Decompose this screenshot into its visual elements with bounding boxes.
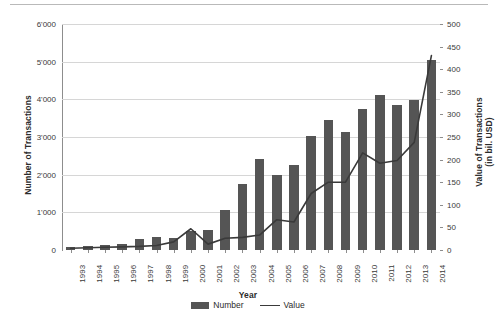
y-axis-right-tick-mark	[440, 160, 443, 161]
x-axis-tick-mark	[157, 250, 158, 253]
y-axis-right-tick-mark	[440, 182, 443, 183]
x-axis-tick-mark	[363, 250, 364, 253]
y-axis-right-tick-mark	[440, 250, 443, 251]
y-axis-right-tick-label: 50	[447, 223, 456, 232]
y-axis-right-title-line2: (in bil. USD)	[484, 117, 494, 166]
y-axis-left-title: Number of Transactions	[23, 65, 33, 225]
x-axis-tick-mark	[242, 250, 243, 253]
y-axis-right-tick-label: 500	[447, 20, 460, 29]
y-axis-left-tick-label: 4'000	[37, 95, 56, 104]
x-axis-tick-label: 1994	[95, 265, 104, 283]
x-axis-tick-label: 2001	[215, 265, 224, 283]
x-axis-tick-mark	[208, 250, 209, 253]
x-axis-tick-label: 2005	[284, 265, 293, 283]
x-axis-tick-mark	[294, 250, 295, 253]
x-axis-tick-mark	[397, 250, 398, 253]
y-axis-right-tick-label: 200	[447, 155, 460, 164]
x-axis-tick-mark	[277, 250, 278, 253]
y-axis-right-tick-label: 400	[447, 65, 460, 74]
y-axis-left-tick-label: 1'000	[37, 208, 56, 217]
y-axis-right-tick-mark	[440, 24, 443, 25]
y-axis-right-tick-mark	[440, 114, 443, 115]
y-axis-right-tick-mark	[440, 47, 443, 48]
y-axis-left-tick-label: 0	[52, 246, 56, 255]
legend-label-number: Number	[213, 300, 243, 310]
x-axis-tick-mark	[174, 250, 175, 253]
y-axis-right-title-line1: Value of Transactions	[474, 97, 484, 187]
chart-figure: Number of Transactions Value of Transact…	[0, 0, 496, 316]
x-axis-tick-mark	[380, 250, 381, 253]
x-axis-tick-mark	[139, 250, 140, 253]
y-axis-right-tick-mark	[440, 69, 443, 70]
y-axis-left-tick-label: 5'000	[37, 57, 56, 66]
y-axis-left-tick-label: 3'000	[37, 133, 56, 142]
x-axis-tick-label: 2009	[353, 265, 362, 283]
y-axis-right-tick-label: 100	[447, 200, 460, 209]
x-axis-tick-label: 2004	[267, 265, 276, 283]
y-axis-right-tick-mark	[440, 137, 443, 138]
legend-line-swatch-icon	[260, 305, 280, 306]
legend-item-number: Number	[191, 300, 243, 310]
x-axis-tick-label: 2011	[387, 265, 396, 282]
x-axis-tick-label: 2000	[198, 265, 207, 283]
x-axis-tick-mark	[260, 250, 261, 253]
x-axis-tick-label: 2013	[422, 265, 431, 283]
top-divider	[10, 4, 488, 5]
line-series-value	[62, 24, 440, 250]
x-axis-tick-label: 1997	[147, 265, 156, 283]
x-axis-tick-label: 2008	[336, 265, 345, 283]
x-axis-tick-label: 2010	[370, 265, 379, 283]
x-axis-tick-mark	[328, 250, 329, 253]
x-axis-tick-mark	[88, 250, 89, 253]
y-axis-right-tick-label: 300	[447, 110, 460, 119]
x-axis-tick-mark	[414, 250, 415, 253]
x-axis-tick-label: 2002	[233, 265, 242, 283]
y-axis-right-tick-label: 0	[447, 246, 451, 255]
plot-area: 01'0002'0003'0004'0005'0006'000 05010015…	[62, 24, 440, 250]
y-axis-left-tick-label: 6'000	[37, 20, 56, 29]
y-axis-right-tick-mark	[440, 92, 443, 93]
x-axis-tick-mark	[105, 250, 106, 253]
x-axis-tick-label: 2006	[301, 265, 310, 283]
x-axis-tick-label: 1993	[78, 265, 87, 283]
y-axis-right-tick-label: 350	[447, 87, 460, 96]
x-axis-tick-mark	[225, 250, 226, 253]
x-axis-tick-label: 2014	[439, 265, 448, 283]
x-axis-tick-mark	[122, 250, 123, 253]
x-axis-tick-mark	[311, 250, 312, 253]
x-axis-tick-mark	[191, 250, 192, 253]
y-axis-right-title: Value of Transactions (in bil. USD)	[474, 62, 494, 222]
x-axis-tick-mark	[346, 250, 347, 253]
x-axis-tick-mark	[71, 250, 72, 253]
y-axis-right-tick-label: 250	[447, 133, 460, 142]
chart-legend: Number Value	[0, 300, 496, 310]
x-axis-tick-label: 1996	[130, 265, 139, 283]
x-axis-tick-label: 1995	[112, 265, 121, 283]
legend-bar-swatch-icon	[191, 302, 209, 309]
x-axis-tick-label: 2007	[319, 265, 328, 283]
x-axis-tick-label: 2012	[404, 265, 413, 283]
x-axis-tick-label: 1999	[181, 265, 190, 283]
y-axis-left-tick-label: 2'000	[37, 170, 56, 179]
x-axis-tick-label: 1998	[164, 265, 173, 283]
y-axis-right-tick-label: 450	[447, 42, 460, 51]
x-axis-tick-label: 2003	[250, 265, 259, 283]
y-axis-right-tick-mark	[440, 227, 443, 228]
y-axis-right-tick-mark	[440, 205, 443, 206]
legend-label-value: Value	[284, 300, 305, 310]
x-axis-title: Year	[0, 290, 496, 300]
x-axis-tick-mark	[431, 250, 432, 253]
legend-item-value: Value	[260, 300, 305, 310]
y-axis-right-tick-label: 150	[447, 178, 460, 187]
